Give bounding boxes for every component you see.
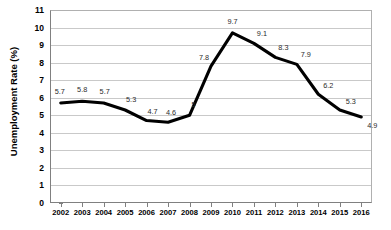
- x-axis-tick-label: 2015: [331, 209, 348, 217]
- x-axis-tick-mark: [82, 203, 83, 207]
- data-point-label: 9.1: [257, 31, 267, 38]
- x-axis-tick-mark: [211, 203, 212, 207]
- x-axis-tick-label: 2011: [246, 209, 262, 217]
- x-axis-tick-label: 2016: [353, 209, 370, 217]
- data-point-label: 5: [192, 102, 196, 109]
- x-axis-tick-mark: [125, 203, 126, 207]
- x-axis-tick-mark: [104, 203, 105, 207]
- data-point-label: 5.3: [126, 96, 136, 103]
- data-point-label: 8.3: [278, 45, 288, 52]
- x-axis-tick-mark: [61, 203, 62, 207]
- data-point-label: 4.7: [148, 108, 158, 115]
- x-axis-tick-label: 2007: [160, 209, 177, 217]
- data-point-label: 5.3: [346, 98, 356, 105]
- x-axis-tick-mark: [147, 203, 148, 207]
- x-axis-tick-mark: [168, 203, 169, 207]
- unemployment-series-line: [0, 0, 391, 230]
- data-point-label: 9.7: [227, 18, 237, 25]
- data-point-label: 5.8: [77, 87, 87, 94]
- data-point-label: 4.6: [166, 110, 176, 117]
- x-axis-tick-mark: [340, 203, 341, 207]
- x-axis-tick-mark: [275, 203, 276, 207]
- x-axis-tick-label: 2013: [288, 209, 305, 217]
- x-axis-tick-label: 2005: [117, 209, 134, 217]
- x-axis-tick-label: 2006: [138, 209, 155, 217]
- x-axis-tick-mark: [190, 203, 191, 207]
- x-axis-tick-label: 2003: [74, 209, 91, 217]
- x-axis-tick-label: 2009: [203, 209, 220, 217]
- data-point-label: 7.9: [301, 52, 311, 59]
- x-axis-tick-label: 2010: [224, 209, 241, 217]
- x-axis-tick-mark: [254, 203, 255, 207]
- x-axis-tick-label: 2002: [52, 209, 69, 217]
- x-axis-tick-label: 2008: [181, 209, 198, 217]
- unemployment-rate-line-chart: Unemployment Rate (%) 11109876543210 200…: [0, 0, 391, 230]
- x-axis-tick-mark: [232, 203, 233, 207]
- x-axis-tick-mark: [318, 203, 319, 207]
- data-point-label: 4.9: [367, 122, 377, 129]
- data-point-label: 5.7: [55, 88, 65, 95]
- data-point-label: 6.2: [323, 83, 333, 90]
- x-axis-tick-label: 2012: [267, 209, 284, 217]
- x-axis-tick-mark: [297, 203, 298, 207]
- x-axis-tick-mark: [361, 203, 362, 207]
- data-point-label: 7.8: [199, 54, 209, 61]
- x-axis-tick-label: 2004: [95, 209, 112, 217]
- data-point-label: 5.7: [100, 88, 110, 95]
- x-axis-tick-label: 2014: [310, 209, 327, 217]
